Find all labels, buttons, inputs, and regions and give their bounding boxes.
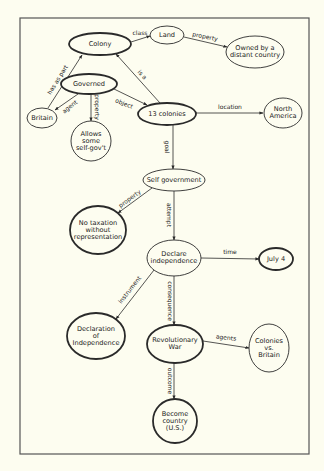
edge-arrow xyxy=(131,36,150,42)
edge-arrow xyxy=(203,341,249,348)
edge-label: object xyxy=(114,96,135,111)
edge-label: consequence xyxy=(166,281,174,321)
node-declaration: DeclarationofIndependence xyxy=(67,313,125,359)
edge-label: location xyxy=(218,103,242,110)
node-label: 13 colonies xyxy=(148,110,186,118)
node-label: Britain xyxy=(258,351,280,359)
edge-selfgov-to-declare: attempt xyxy=(165,191,174,240)
node-declare: Declareindependence xyxy=(147,240,201,276)
edge-thirteen-to-selfgov: goal xyxy=(163,125,173,169)
node-july4: July 4 xyxy=(259,248,293,270)
node-label: Colony xyxy=(89,40,112,48)
node-label: War xyxy=(169,343,182,351)
edge-label: property xyxy=(117,188,143,210)
node-label: self-gov't xyxy=(76,144,107,152)
concept-map: classpropertyhas as partagentpropertyobj… xyxy=(0,0,324,471)
node-label: Independence xyxy=(73,339,120,347)
edge-colony-to-land: class xyxy=(131,29,150,42)
node-britain: Britain xyxy=(27,108,57,128)
node-label: Britain xyxy=(31,114,53,122)
edge-revwar-to-colvsbrit: agents xyxy=(203,333,249,348)
node-label: representation xyxy=(74,233,122,241)
edge-label: time xyxy=(223,248,237,255)
edge-land-to-owned: property xyxy=(184,30,227,47)
edge-thirteen-to-colony: is a xyxy=(116,54,160,103)
node-notax: No taxationwithoutrepresentation xyxy=(70,206,126,254)
edge-declare-to-july4: time xyxy=(201,248,259,259)
node-owned: Owned by adistant country xyxy=(226,36,284,68)
edge-label: property xyxy=(93,94,101,120)
edge-label: agent xyxy=(60,98,79,115)
node-label: independence xyxy=(151,257,198,265)
edge-label: attempt xyxy=(165,203,173,228)
node-become: Becomecountry(U.S.) xyxy=(153,399,197,443)
edge-label: goal xyxy=(163,141,171,154)
edge-revwar-to-become: outcome xyxy=(167,363,174,399)
node-thirteen: 13 colonies xyxy=(138,103,196,125)
edge-label: outcome xyxy=(167,368,174,395)
edge-label: class xyxy=(133,29,148,36)
node-land: Land xyxy=(150,26,184,44)
node-label: Self government xyxy=(147,176,202,184)
edge-thirteen-to-northamerica: location xyxy=(196,103,263,113)
edge-arrow xyxy=(201,258,259,259)
node-allows: Allowssomeself-gov't xyxy=(71,121,111,161)
node-selfgov: Self government xyxy=(143,169,205,191)
nodes-layer: ColonyLandOwned by adistant countryGover… xyxy=(27,26,302,443)
edge-label: property xyxy=(192,30,219,43)
node-northamerica: NorthAmerica xyxy=(264,98,302,128)
edge-label: agents xyxy=(215,333,236,343)
node-label: July 4 xyxy=(266,255,285,263)
node-colvsbrit: Coloniesvs.Britain xyxy=(249,324,289,372)
edge-selfgov-to-notax: property xyxy=(117,188,152,213)
node-label: America xyxy=(269,112,296,120)
edge-declare-to-declaration: instrument xyxy=(116,270,154,319)
edge-arrow xyxy=(116,54,160,103)
node-label: Governed xyxy=(73,80,105,88)
edge-declare-to-revwar: consequence xyxy=(166,276,174,325)
edge-governed-to-britain: agent xyxy=(55,94,80,115)
node-label: distant country xyxy=(230,51,280,59)
node-revwar: RevolutionaryWar xyxy=(147,325,203,363)
node-label: (U.S.) xyxy=(166,424,184,432)
node-colony: Colony xyxy=(69,33,131,55)
node-label: Land xyxy=(159,31,175,39)
node-governed: Governed xyxy=(61,74,117,94)
edge-governed-to-allows: property xyxy=(91,94,101,121)
